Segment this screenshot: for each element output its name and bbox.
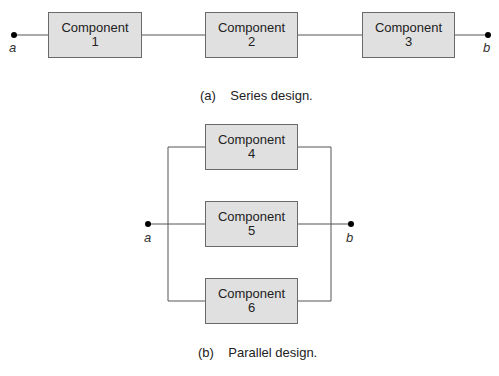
component-number: 5 (248, 224, 255, 238)
series-terminal-b-dot (485, 32, 491, 38)
series-caption: (a) Series design. (200, 88, 313, 103)
caption-text: Parallel design. (228, 345, 317, 360)
component-1-box: Component 1 (48, 12, 142, 58)
component-number: 4 (248, 147, 255, 161)
component-number: 2 (248, 35, 255, 49)
parallel-terminal-a-dot (145, 221, 151, 227)
component-label: Component (218, 287, 285, 301)
caption-tag: (a) (200, 88, 216, 103)
component-label: Component (218, 210, 285, 224)
parallel-terminal-a-label: a (144, 230, 151, 245)
component-5-box: Component 5 (205, 201, 298, 247)
component-number: 1 (91, 35, 98, 49)
component-label: Component (375, 21, 442, 35)
parallel-terminal-b-label: b (346, 230, 353, 245)
component-2-box: Component 2 (205, 12, 298, 58)
component-label: Component (61, 21, 128, 35)
component-label: Component (218, 21, 285, 35)
series-terminal-b-label: b (483, 40, 490, 55)
series-terminal-a-dot (11, 32, 17, 38)
series-terminal-a-label: a (9, 40, 16, 55)
component-3-box: Component 3 (362, 12, 455, 58)
component-6-box: Component 6 (205, 278, 298, 324)
caption-text: Series design. (230, 88, 312, 103)
component-label: Component (218, 133, 285, 147)
parallel-caption: (b) Parallel design. (198, 345, 317, 360)
component-4-box: Component 4 (205, 124, 298, 170)
caption-tag: (b) (198, 345, 214, 360)
component-number: 3 (405, 35, 412, 49)
parallel-terminal-b-dot (348, 221, 354, 227)
component-number: 6 (248, 301, 255, 315)
